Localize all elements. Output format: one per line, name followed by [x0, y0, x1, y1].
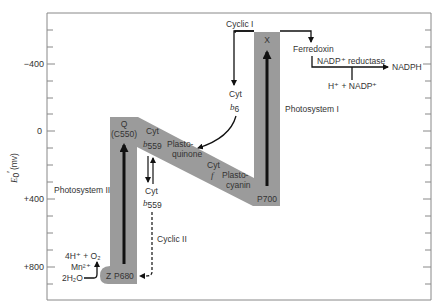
- p680-label: P680: [114, 271, 134, 281]
- plastoquinone-label-1: Plasto-: [167, 139, 194, 149]
- cyt-f-label: Cyt: [207, 160, 220, 170]
- manganese-label: Mn²⁺: [71, 262, 91, 272]
- nadp-reductase-label: NADP⁺ reductase: [317, 56, 386, 66]
- ferredoxin-label: Ferredoxin: [293, 44, 334, 54]
- h-nadp-label: H⁺ + NADP⁺: [328, 81, 377, 91]
- x-label: X: [264, 35, 270, 45]
- to-ferredoxin-arrow: [280, 31, 311, 42]
- plastocyanin-label-2: cyanin: [226, 180, 251, 190]
- b6-to-plastoquinone-arrow: [198, 116, 236, 148]
- cyclic2-arrow: [140, 212, 152, 276]
- tick-label-0: 0: [37, 126, 42, 136]
- cyclic1-loop: [234, 31, 254, 85]
- z-label: Z: [106, 271, 111, 281]
- b559-lower-label: b559: [143, 198, 162, 210]
- left-axis-ticks: [47, 30, 55, 284]
- q-label: Q: [121, 119, 128, 129]
- tick-label-plus800: +800: [24, 262, 44, 272]
- photosystem1-label: Photosystem I: [285, 104, 339, 114]
- plastoquinone-label-2: quinone: [172, 149, 203, 159]
- oxygen-products-label: 4H⁺ + O₂: [65, 251, 100, 261]
- water-label: 2H₂O: [62, 273, 83, 283]
- y-axis-title: E0′(mv): [5, 153, 21, 184]
- tick-label-minus400: −400: [24, 59, 44, 69]
- photosystem2-label: Photosystem II: [54, 185, 110, 195]
- nadph-label: NADPH: [392, 62, 422, 72]
- cyt-b6-label: Cyt: [229, 89, 242, 99]
- b6-label: b6: [230, 102, 240, 114]
- c550-label: (C550): [111, 129, 137, 139]
- cyt-b559-upper-label: Cyt: [146, 126, 159, 136]
- p700-label: P700: [257, 194, 277, 204]
- cyclic1-label: Cyclic I: [226, 19, 253, 29]
- cyclic2-label: Cyclic II: [157, 234, 187, 244]
- svg-text:E0′(mv): E0′(mv): [5, 153, 21, 184]
- tick-label-plus400: +400: [24, 194, 44, 204]
- z-scheme-diagram: −400 0 +400 +800 E0′(mv) Cyclic I X Ferr…: [0, 0, 439, 307]
- plastocyanin-label-1: Plasto-: [222, 170, 249, 180]
- right-axis-ticks: [423, 30, 431, 284]
- cyt-b559-lower-label: Cyt: [145, 186, 158, 196]
